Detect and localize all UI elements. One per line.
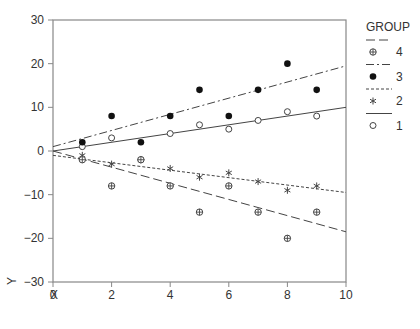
data-point-group-3 (79, 139, 86, 146)
data-point-group-1 (255, 117, 261, 123)
x-tick-label: 10 (339, 288, 353, 302)
data-point-group-1 (314, 113, 320, 119)
data-point-group-1 (284, 109, 290, 115)
legend-marker-1 (370, 123, 376, 129)
fit-line-group-1 (53, 107, 346, 151)
x-tick-label: 4 (167, 288, 174, 302)
x-tick-label: 8 (284, 288, 291, 302)
legend-label-2: 2 (396, 94, 403, 108)
y-tick-label: 0 (37, 144, 44, 158)
legend-label-3: 3 (396, 70, 403, 84)
y-tick-label: −30 (24, 275, 45, 289)
data-point-group-3 (108, 113, 115, 120)
legend-marker-3 (370, 73, 377, 80)
data-point-group-1 (197, 122, 203, 128)
x-axis-label: X (50, 288, 58, 302)
y-tick-label: 20 (31, 57, 45, 71)
y-tick-label: 10 (31, 100, 45, 114)
data-point-group-3 (255, 87, 262, 94)
fit-line-group-4 (53, 151, 346, 232)
plot-frame (53, 20, 346, 282)
y-axis-label: Y (5, 277, 19, 285)
data-point-group-1 (109, 135, 115, 141)
legend-label-1: 1 (396, 119, 403, 133)
scatter-chart: −30−20−10010203002468104321 (0, 0, 420, 329)
data-point-group-3 (138, 139, 145, 146)
y-tick-label: −10 (24, 188, 45, 202)
legend-title: GROUP (366, 20, 410, 34)
legend-label-4: 4 (396, 45, 403, 59)
y-tick-label: 30 (31, 13, 45, 27)
x-tick-label: 2 (108, 288, 115, 302)
data-point-group-3 (284, 60, 291, 67)
y-tick-label: −20 (24, 231, 45, 245)
data-point-group-3 (167, 113, 174, 120)
fit-line-group-3 (53, 66, 346, 147)
data-point-group-1 (226, 126, 232, 132)
data-point-group-3 (313, 87, 320, 94)
data-point-group-3 (196, 87, 203, 94)
data-point-group-1 (167, 131, 173, 137)
data-point-group-3 (226, 113, 233, 120)
x-tick-label: 6 (225, 288, 232, 302)
